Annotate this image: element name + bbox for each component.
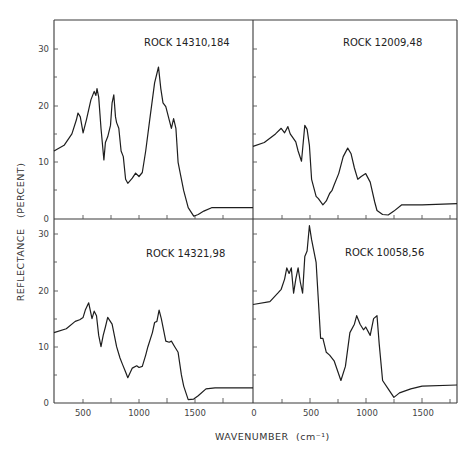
ytick-top-20: 20 — [38, 101, 49, 111]
xtick-left-1000: 1000 — [128, 408, 150, 418]
ytick-bottom-10: 10 — [38, 342, 49, 352]
x-ticks — [83, 215, 450, 403]
y-ticks — [54, 49, 257, 375]
ytick-bottom-20: 20 — [38, 286, 49, 296]
x-axis-unit: (cm⁻¹) — [296, 431, 330, 442]
ytick-top-10: 10 — [38, 157, 49, 167]
panel-title-bottom-left: ROCK 14321,98 — [146, 248, 225, 259]
spectrum-rock-12009-48 — [253, 125, 457, 215]
spectrum-rock-14310-184 — [54, 67, 253, 216]
ytick-top-30: 30 — [38, 44, 49, 54]
xtick-right-0: 0 — [251, 408, 256, 418]
xtick-left-1500: 1500 — [184, 408, 206, 418]
panel-title-top-right: ROCK 12009,48 — [343, 37, 422, 48]
reflectance-chart: 30 20 10 0 30 20 10 0 500 1000 1500 0 50… — [0, 0, 475, 454]
ytick-top-0: 0 — [44, 214, 49, 224]
y-axis-label: REFLECTANCE (PERCENT) — [15, 163, 26, 302]
ytick-bottom-30: 30 — [38, 229, 49, 239]
y-tick-labels: 30 20 10 0 30 20 10 0 — [38, 44, 49, 408]
x-tick-labels: 500 1000 1500 0 500 1000 1500 — [75, 408, 434, 418]
ytick-bottom-0: 0 — [44, 398, 49, 408]
panel-title-top-left: ROCK 14310,184 — [144, 37, 230, 48]
spectrum-rock-14321-98 — [54, 303, 253, 400]
xtick-right-1000: 1000 — [356, 408, 378, 418]
panel-title-bottom-right: ROCK 10058,56 — [345, 247, 424, 258]
xtick-right-500: 500 — [303, 408, 319, 418]
x-axis-label: WAVENUMBER — [215, 431, 289, 442]
xtick-right-1500: 1500 — [412, 408, 434, 418]
xtick-left-500: 500 — [75, 408, 91, 418]
